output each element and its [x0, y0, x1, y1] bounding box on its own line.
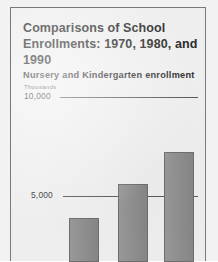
- bar-1980: [118, 184, 148, 262]
- bar-1990: [164, 152, 194, 262]
- bar-shade: [165, 153, 193, 261]
- chart-card: Comparisons of School Enrollments: 1970,…: [10, 7, 206, 261]
- bar-shade: [119, 185, 147, 261]
- bar-shade: [70, 219, 98, 261]
- bar-1970: [69, 218, 99, 262]
- y-axis-tick-10000: 10,000: [24, 91, 51, 101]
- bar-chart-plot: Thousands 10,000 5,000: [11, 8, 207, 262]
- gridline-10000: [60, 97, 198, 98]
- y-axis-tick-5000: 5,000: [31, 190, 53, 200]
- y-axis-units-label: Thousands: [24, 83, 56, 90]
